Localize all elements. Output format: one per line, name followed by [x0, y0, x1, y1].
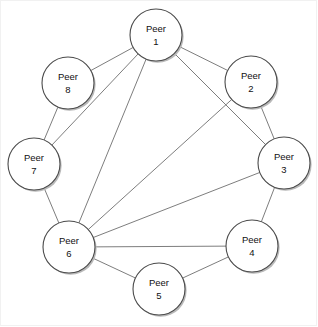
edge-peer8-peer1 — [91, 47, 133, 70]
node-circle[interactable] — [42, 57, 94, 109]
edge-peer6-peer7 — [44, 188, 59, 223]
node-circle[interactable] — [43, 221, 95, 273]
node-peer6[interactable]: Peer6 — [43, 221, 97, 275]
node-peer4[interactable]: Peer4 — [226, 220, 280, 274]
node-peer7[interactable]: Peer7 — [8, 138, 62, 192]
edge-peer2-peer6 — [88, 99, 231, 229]
diagram-canvas: Peer1Peer2Peer3Peer4Peer5Peer6Peer7Peer8 — [0, 0, 318, 327]
node-label-word: Peer — [59, 235, 79, 246]
edge-peer5-peer6 — [93, 258, 136, 278]
node-label-index: 1 — [153, 36, 158, 47]
edge-peer2-peer3 — [261, 106, 274, 139]
node-layer: Peer1Peer2Peer3Peer4Peer5Peer6Peer7Peer8 — [8, 9, 312, 317]
node-label-index: 4 — [249, 247, 254, 258]
node-peer5[interactable]: Peer5 — [133, 263, 187, 317]
node-label-index: 5 — [156, 290, 161, 301]
node-label-index: 7 — [31, 165, 36, 176]
node-peer1[interactable]: Peer1 — [130, 9, 184, 63]
node-peer8[interactable]: Peer8 — [42, 57, 96, 111]
edge-peer1-peer2 — [179, 47, 227, 71]
node-label-index: 8 — [65, 84, 70, 95]
node-label-word: Peer — [241, 70, 261, 81]
node-circle[interactable] — [133, 263, 185, 315]
node-label-word: Peer — [149, 277, 169, 288]
node-label-word: Peer — [146, 23, 166, 34]
node-peer2[interactable]: Peer2 — [225, 56, 279, 110]
edge-peer4-peer5 — [183, 257, 229, 278]
edge-peer3-peer4 — [261, 187, 274, 221]
node-label-index: 2 — [248, 83, 253, 94]
node-circle[interactable] — [258, 137, 310, 189]
node-label-index: 6 — [66, 248, 71, 259]
node-label-word: Peer — [58, 71, 78, 82]
node-label-index: 3 — [281, 164, 286, 175]
node-circle[interactable] — [225, 56, 277, 108]
node-circle[interactable] — [130, 9, 182, 61]
edge-peer4-peer6 — [95, 246, 226, 247]
node-peer3[interactable]: Peer3 — [258, 137, 312, 191]
node-label-word: Peer — [242, 234, 262, 245]
node-label-word: Peer — [274, 151, 294, 162]
node-circle[interactable] — [226, 220, 278, 272]
edge-peer7-peer8 — [44, 107, 58, 140]
peer-network-graph: Peer1Peer2Peer3Peer4Peer5Peer6Peer7Peer8 — [0, 0, 318, 327]
node-label-word: Peer — [24, 152, 44, 163]
node-circle[interactable] — [8, 138, 60, 190]
